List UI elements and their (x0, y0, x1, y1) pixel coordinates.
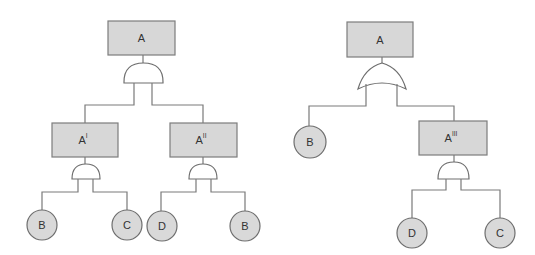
left-intermediate-box-a2 (170, 123, 237, 157)
left-top-event-label: A (138, 32, 146, 44)
basic-event-b2-label: B (241, 220, 248, 232)
basic-event-c-label: C (123, 219, 131, 231)
right-basic-event-b-label: B (306, 136, 313, 148)
a1-and-gate-icon (72, 164, 100, 179)
left-fault-tree: A AI B C AII D B (27, 21, 260, 241)
right-top-event-label: A (376, 34, 384, 46)
basic-event-b-label: B (38, 219, 45, 231)
right-top-or-gate-icon (358, 63, 406, 89)
fault-tree-diagram: A AI B C AII D B (0, 0, 535, 255)
right-fault-tree: A B AIII D C (294, 22, 515, 248)
right-basic-event-d-label: D (408, 227, 416, 239)
right-basic-event-c-label: C (496, 227, 504, 239)
left-top-and-gate-icon (124, 63, 163, 83)
basic-event-d-label: D (158, 220, 166, 232)
a2-and-gate-icon (189, 164, 217, 179)
a3-and-gate-icon (438, 162, 469, 179)
right-intermediate-box-a3 (419, 121, 487, 155)
